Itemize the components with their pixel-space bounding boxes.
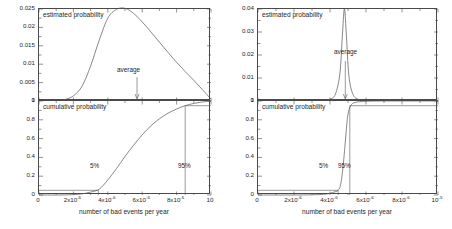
y-tick-label: 0.01: [23, 60, 35, 66]
panel-right: estimated probability average 0.040.030.…: [226, 0, 452, 229]
left-bottom-inline-label: cumulative probability: [43, 103, 106, 110]
y-tick-label: 0.02: [242, 51, 254, 57]
y-tick-label: 0.015: [20, 42, 35, 48]
left-x-axis-title: number of bad events per year: [79, 208, 169, 215]
y-tick-label: 0.8: [245, 116, 254, 122]
y-tick-label: 0.005: [20, 78, 35, 84]
left-x-axis-tick-labels: 02x10-64x10-66x10-68x10-610: [38, 197, 210, 207]
x-tick-label: 0: [255, 197, 258, 203]
y-tick-label: 0: [251, 191, 254, 197]
data-curve: [258, 101, 438, 195]
y-tick-label: 0.01: [242, 74, 254, 80]
left-bottom-95pct-label: 95%: [178, 163, 191, 170]
right-top-inline-label: estimated probability: [262, 11, 322, 18]
left-top-plot-area: estimated probability average: [38, 8, 210, 100]
panel-left: estimated probability average 0.0250.020…: [0, 0, 226, 229]
y-tick-label: 0: [32, 191, 35, 197]
x-tick-label: 4x10-6: [98, 197, 115, 203]
left-top-y-axis-labels: 0.0250.020.0150.010.0050: [0, 8, 35, 100]
right-top-plot-area: estimated probability average: [257, 8, 437, 100]
y-tick-label: 0.02: [23, 23, 35, 29]
right-bottom-95pct-label: 95%: [338, 163, 351, 170]
y-tick-label: 1: [32, 97, 35, 103]
left-top-average-label: average: [117, 67, 140, 74]
y-tick-label: 0.2: [26, 172, 35, 178]
y-tick-label: 0.4: [245, 153, 254, 159]
average-arrow-icon: [135, 77, 139, 99]
x-tick-label: 0: [36, 197, 39, 203]
average-arrow-icon: [343, 61, 347, 99]
x-tick-label: 10-5: [432, 197, 443, 203]
y-tick-label: 0.8: [26, 116, 35, 122]
x-tick-label: 8x10-6: [167, 197, 184, 203]
right-bottom-inline-label: cumulative probability: [262, 103, 325, 110]
percentile-markers: [258, 106, 438, 195]
data-curve: [39, 8, 211, 101]
x-tick-label: 10: [207, 197, 214, 203]
percentile-markers: [39, 106, 211, 195]
left-top-inline-label: estimated probability: [43, 11, 103, 18]
right-bottom-5pct-label: 5%: [319, 163, 328, 170]
y-tick-label: 1: [251, 97, 254, 103]
x-tick-label: 4x10-6: [320, 197, 337, 203]
x-tick-label: 2x10-6: [64, 197, 81, 203]
right-bottom-y-axis-labels: 10.80.60.40.20: [226, 100, 254, 194]
y-tick-label: 0.025: [20, 5, 35, 11]
x-tick-label: 6x10-6: [356, 197, 373, 203]
x-tick-label: 2x10-6: [284, 197, 301, 203]
right-bottom-plot-area: cumulative probability 5% 95%: [257, 100, 437, 194]
y-tick-label: 0.2: [245, 172, 254, 178]
y-tick-label: 0.6: [245, 134, 254, 140]
right-top-y-axis-labels: 0.040.030.020.010: [226, 8, 254, 100]
right-x-axis-title: number of bad events per year: [302, 208, 392, 215]
right-top-average-label: average: [334, 49, 357, 56]
left-bottom-plot-area: cumulative probability 5% 95%: [38, 100, 210, 194]
left-bottom-5pct-label: 5%: [90, 163, 99, 170]
y-tick-label: 0.4: [26, 153, 35, 159]
y-tick-label: 0.6: [26, 134, 35, 140]
figure-container: estimated probability average 0.0250.020…: [0, 0, 452, 229]
left-bottom-y-axis-labels: 10.80.60.40.20: [0, 100, 35, 194]
x-tick-label: 8x10-6: [392, 197, 409, 203]
y-tick-label: 0.04: [242, 5, 254, 11]
x-tick-label: 6x10-6: [133, 197, 150, 203]
right-x-axis-tick-labels: 02x10-64x10-66x10-68x10-610-5: [257, 197, 437, 207]
y-tick-label: 0.03: [242, 28, 254, 34]
